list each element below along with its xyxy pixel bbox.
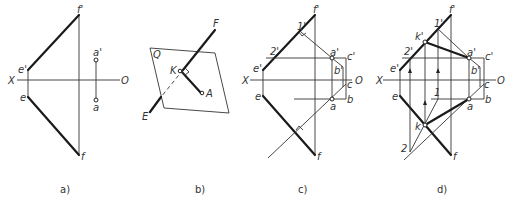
label-a: a: [93, 102, 99, 113]
label-e-prime: e': [390, 63, 399, 74]
label-f-prime: f': [313, 4, 319, 15]
label-A: A: [205, 88, 213, 99]
label-Q: Q: [153, 49, 161, 60]
point-a-prime: [94, 58, 98, 62]
label-a-prime: a': [330, 47, 339, 58]
label-o: O: [497, 75, 505, 86]
caption-b: b): [195, 184, 205, 195]
label-c: c: [484, 79, 490, 90]
line-kf-visible: [183, 30, 215, 70]
line-ef-top: [263, 96, 315, 155]
label-1-prime: 1': [297, 21, 306, 32]
label-c-prime: c': [347, 51, 355, 62]
projection-figure: f' a' X O e' e a f a) F Q K A E b): [0, 0, 508, 204]
point-k: [178, 69, 182, 73]
point-k-prime: [423, 40, 427, 44]
label-e-prime: e': [253, 63, 262, 74]
caption-d: d): [437, 184, 447, 195]
label-e: e: [20, 92, 26, 103]
label-a-prime: a': [467, 47, 476, 58]
label-1: 1: [434, 87, 440, 98]
panel-b: F Q K A E b): [142, 18, 229, 195]
label-1-prime: 1': [434, 18, 443, 29]
label-2: 2: [401, 143, 407, 154]
label-2-prime: 2': [404, 46, 413, 57]
label-b-prime: b': [471, 65, 480, 76]
label-b: b: [347, 94, 353, 105]
label-f: f: [453, 151, 458, 162]
arrow-up-k-icon: [423, 100, 427, 105]
arrow-down-1-icon: [436, 68, 440, 73]
label-e: e: [255, 91, 261, 102]
line-ef-top: [28, 97, 79, 155]
line-ka-front: [425, 42, 469, 58]
label-e: e: [392, 91, 398, 102]
label-o: O: [121, 75, 129, 86]
caption-a: a): [60, 184, 70, 195]
label-2-prime: 2': [270, 46, 279, 57]
point-k: [423, 123, 427, 127]
label-b: b: [485, 94, 491, 105]
perpendicular-front: [301, 32, 332, 58]
label-E: E: [142, 111, 149, 122]
label-c-prime: c': [485, 51, 493, 62]
arrow-down-2-icon: [408, 68, 412, 73]
line-e-segment: [150, 97, 161, 112]
label-f-prime: f': [77, 4, 83, 15]
line-ef-front: [28, 15, 79, 70]
label-a: a: [467, 101, 473, 112]
label-a-prime: a': [93, 47, 102, 58]
label-b-prime: b': [334, 65, 343, 76]
panel-c: f' 1' 2' a' c' e' b' X O c e a b f c): [241, 4, 363, 195]
point-a: [200, 91, 204, 95]
label-c: c: [347, 79, 353, 90]
line-ef-front: [263, 15, 315, 70]
label-e-prime: e': [18, 64, 27, 75]
caption-c: c): [298, 184, 307, 195]
panel-d: f' 1' k' 2' a' c' e' b' X O c e 1 b a k …: [375, 4, 505, 195]
label-K: K: [170, 65, 178, 76]
label-a: a: [330, 101, 336, 112]
label-x: X: [241, 75, 250, 86]
perpendicular-front: [438, 29, 469, 58]
label-F: F: [213, 18, 219, 29]
label-o: O: [355, 75, 363, 86]
label-f: f: [81, 151, 86, 162]
label-x: X: [7, 75, 16, 86]
label-f-prime: f': [449, 4, 455, 15]
label-k-prime: k': [415, 31, 424, 42]
label-f: f: [317, 151, 322, 162]
label-x: X: [375, 75, 384, 86]
panel-a: f' a' X O e' e a f a): [7, 4, 129, 195]
